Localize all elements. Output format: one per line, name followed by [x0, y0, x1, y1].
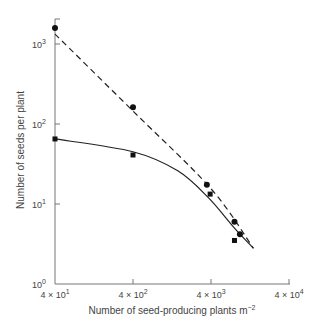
x-axis-ticks: 4 × 1014 × 1024 × 1034 × 104: [40, 279, 303, 300]
dashed-fit-line: [55, 34, 253, 248]
plot-area: 4 × 1014 × 1024 × 1034 × 104 10010110210…: [15, 19, 304, 316]
y-tick-label: 103: [32, 38, 46, 50]
square-data-point: [208, 192, 213, 197]
circle-data-point: [204, 182, 210, 188]
x-tick-label: 4 × 103: [196, 288, 225, 300]
square-data-point: [53, 136, 58, 141]
x-tick-label: 4 × 104: [274, 288, 303, 300]
circle-data-point: [130, 104, 136, 110]
y-tick-label: 100: [32, 278, 46, 290]
y-tick-label: 101: [32, 198, 46, 210]
x-tick-label: 4 × 101: [40, 288, 69, 300]
x-tick-label: 4 × 102: [118, 288, 147, 300]
y-tick-label: 102: [32, 118, 46, 130]
y-axis-ticks: 100101102103: [32, 38, 60, 290]
circle-data-point: [52, 25, 58, 31]
circle-data-point: [231, 219, 237, 225]
circle-data-point: [237, 231, 243, 237]
x-axis-title: Number of seed-producing plants m−2: [89, 304, 256, 316]
square-data-point: [131, 152, 136, 157]
solid-fit-line: [55, 139, 253, 248]
chart-canvas: 4 × 1014 × 1024 × 1034 × 104 10010110210…: [0, 0, 315, 330]
series-points: [52, 25, 243, 243]
y-axis-title: Number of seeds per plant: [15, 91, 26, 209]
series-lines: [55, 34, 253, 248]
square-data-point: [232, 238, 237, 243]
